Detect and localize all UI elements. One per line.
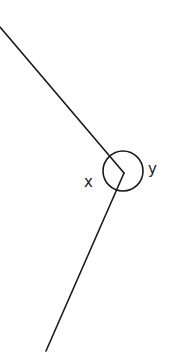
angle-label-y: y bbox=[148, 160, 157, 178]
lower-ray bbox=[46, 173, 124, 351]
upper-ray bbox=[0, 27, 124, 173]
angle-diagram: x y bbox=[0, 0, 171, 361]
diagram-svg: x y bbox=[0, 0, 171, 361]
angle-label-x: x bbox=[84, 173, 93, 191]
